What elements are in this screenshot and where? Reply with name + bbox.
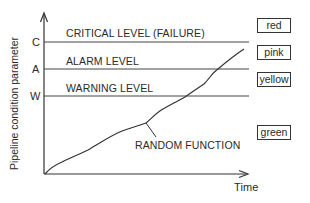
warning-level-label: WARNING LEVEL [66, 82, 153, 94]
alarm-tick-letter: A [32, 63, 39, 75]
zone-box-red: red [257, 18, 291, 33]
zone-box-green: green [257, 125, 291, 140]
zone-box-yellow: yellow [257, 72, 291, 87]
alarm-level-label: ALARM LEVEL [66, 55, 139, 67]
x-axis-label: Time [234, 181, 258, 193]
random-function-label: RANDOM FUNCTION [135, 139, 240, 151]
zone-box-pink: pink [257, 45, 291, 60]
y-axis-label: Pipeline condition parameter [8, 37, 20, 170]
warning-tick-letter: W [30, 90, 40, 102]
pipeline-condition-diagram: Pipeline condition parameter C A W CRITI… [0, 0, 310, 203]
random-function-curve [45, 49, 244, 174]
curve-label-pointer [146, 123, 156, 137]
critical-tick-letter: C [32, 36, 40, 48]
critical-level-label: CRITICAL LEVEL (FAILURE) [66, 27, 205, 39]
